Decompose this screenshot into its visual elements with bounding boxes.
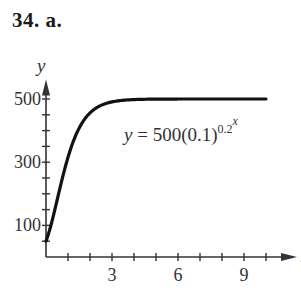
x-tick-label: 3: [108, 265, 117, 285]
equation-equals: =: [132, 124, 152, 145]
x-axis-label: x: [300, 245, 301, 266]
y-axis-arrow-icon: [42, 80, 50, 96]
equation-rhs: 500(0.1): [153, 124, 218, 145]
equation-annotation: y = 500(0.1)0.2x: [124, 114, 238, 146]
y-tick-label: 100: [14, 215, 41, 235]
y-axis-label: y: [35, 55, 46, 76]
equation-exponent: 0.2x: [218, 122, 238, 136]
x-tick-label: 6: [174, 265, 183, 285]
y-tick-label: 500: [14, 89, 41, 109]
exponent-base: 0.2: [218, 122, 233, 136]
exponent-power: x: [233, 114, 238, 128]
x-tick-label: 9: [240, 265, 249, 285]
tick-labels: yx369100300500: [14, 55, 301, 285]
x-axis-arrow-icon: [281, 253, 297, 261]
axes: [42, 80, 297, 261]
y-tick-label: 300: [14, 152, 41, 172]
